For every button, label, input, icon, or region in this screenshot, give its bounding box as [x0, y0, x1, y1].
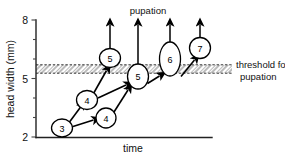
threshold-label-line2: pupation — [240, 71, 276, 82]
instar-nodes: 3 4 4 5 5 6 7 — [52, 38, 211, 138]
pupation-arrows — [110, 25, 200, 64]
instar-node-7[interactable]: 7 — [190, 38, 211, 59]
pupation-top-label: pupation — [130, 5, 166, 16]
instar-node-4a[interactable]: 4 — [77, 91, 98, 110]
growth-arrow-3-to-4a — [70, 107, 82, 123]
growth-arrow-4b-to-5b — [114, 90, 128, 112]
x-axis: time — [36, 138, 212, 155]
instar-node-7-label: 7 — [197, 44, 202, 54]
threshold-label-line1: threshold for — [236, 59, 285, 70]
y-tick-label-2: 2 — [22, 131, 28, 143]
instar-node-6-label: 6 — [167, 55, 172, 65]
instar-node-5a[interactable]: 5 — [100, 49, 121, 68]
instar-node-4b-label: 4 — [103, 114, 108, 124]
growth-arrow-3-to-4b — [73, 120, 94, 127]
instar-node-3-label: 3 — [59, 124, 64, 134]
y-axis-title: head width (mm) — [4, 40, 16, 118]
diagram-canvas: 8 5 2 head width (mm) time — [0, 0, 285, 159]
instar-node-5b[interactable]: 5 — [128, 64, 149, 89]
instar-node-5b-label: 5 — [135, 72, 140, 82]
growth-arrow-4a-to-5a — [94, 71, 107, 94]
growth-arrow-4a-to-5b — [98, 85, 126, 98]
y-tick-label-8: 8 — [22, 14, 28, 26]
growth-arrow-5b-to-6 — [148, 76, 160, 84]
instar-node-4b[interactable]: 4 — [96, 108, 116, 128]
instar-node-5a-label: 5 — [107, 54, 112, 64]
y-axis: 8 5 2 head width (mm) — [4, 14, 36, 143]
growth-trajectory-diagram: 8 5 2 head width (mm) time — [0, 0, 285, 159]
instar-node-6[interactable]: 6 — [160, 42, 181, 76]
instar-node-3[interactable]: 3 — [52, 119, 73, 137]
instar-node-4a-label: 4 — [84, 96, 89, 106]
y-tick-label-5: 5 — [22, 73, 28, 85]
x-axis-title: time — [123, 142, 143, 154]
